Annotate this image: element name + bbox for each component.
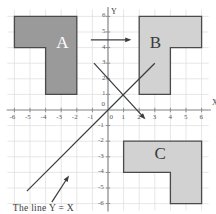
y-tick-label: 3	[102, 59, 106, 66]
shape-a	[14, 16, 76, 94]
y-tick-label: -3	[98, 153, 104, 160]
x-tick-label: -2	[72, 114, 78, 121]
x-tick-label: 4	[168, 114, 172, 121]
y-tick-label: 1	[102, 90, 106, 97]
y-tick-label: 5	[102, 28, 106, 35]
x-tick-label: -1	[87, 114, 93, 121]
y-axis-name: Y	[111, 8, 117, 16]
x-tick-label: -4	[41, 114, 47, 121]
y-tick-label: -1	[98, 122, 104, 129]
y-tick-label: -6	[98, 200, 104, 207]
y-tick-label: 6	[102, 12, 106, 19]
y-tick-label: -5	[98, 184, 104, 191]
shape-b	[139, 16, 201, 94]
translation-arrow-a-to-b-head	[125, 37, 131, 42]
shape-label-c: C	[154, 145, 165, 162]
x-tick-label: -5	[25, 114, 31, 121]
shape-label-a: A	[56, 34, 68, 51]
y-tick-label: -2	[98, 137, 104, 144]
caption-pointer-arrow-head	[64, 176, 69, 183]
geometry-figure: -6-5-4-3-2-1123456654321-1-2-3-4-5-600 X…	[0, 0, 216, 214]
x-tick-label: -3	[56, 114, 62, 121]
origin-label-top: 0	[102, 101, 106, 108]
origin-label-axis: 0	[110, 114, 114, 121]
y-tick-label: 2	[102, 75, 106, 82]
x-tick-label: 1	[122, 114, 126, 121]
y-tick-label: 4	[102, 44, 106, 51]
shape-label-b: B	[150, 34, 161, 51]
x-tick-label: -6	[9, 114, 15, 121]
coordinate-plane	[0, 0, 216, 214]
x-tick-label: 6	[200, 114, 204, 121]
x-axis-name: X	[212, 99, 216, 107]
caption-pointer-arrow-shaft	[52, 180, 66, 202]
line-caption: The line Y = X	[13, 203, 74, 213]
x-tick-label: 3	[153, 114, 157, 121]
x-tick-label: 5	[184, 114, 188, 121]
y-tick-label: -4	[98, 168, 104, 175]
x-tick-label: 2	[137, 114, 141, 121]
